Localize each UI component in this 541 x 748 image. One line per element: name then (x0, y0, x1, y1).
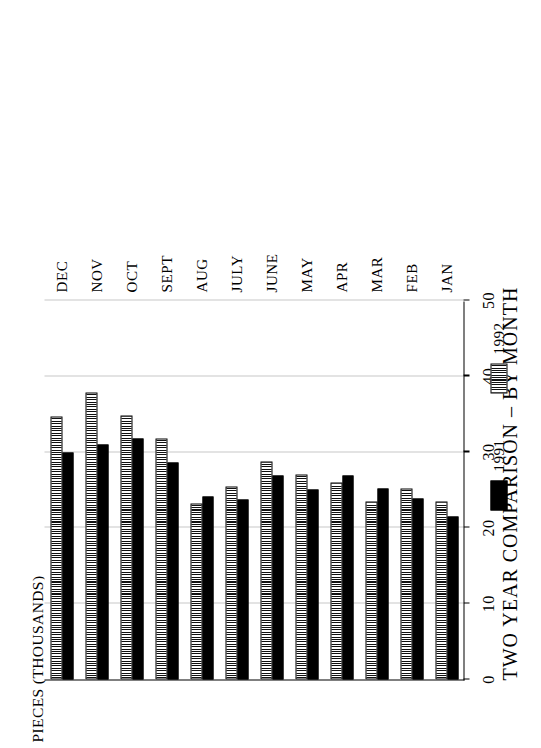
bar-1992 (85, 392, 96, 679)
bar-1992 (260, 461, 271, 679)
bar-group: OCT (114, 301, 149, 679)
legend-item-1992: 1992 (490, 322, 507, 393)
category-label: FEB (403, 263, 420, 292)
bar-1992 (365, 501, 376, 679)
category-label: AUG (193, 258, 210, 292)
bar-group: FEB (394, 301, 429, 679)
axis-tick (463, 526, 469, 527)
chart-page: PIECES (THOUSANDS) JANFEBMARAPRMAYJUNEJU… (0, 0, 541, 748)
category-label: MAY (298, 257, 315, 292)
legend-label-1992: 1992 (490, 322, 507, 354)
bar-1991 (447, 516, 458, 679)
gridline (44, 299, 463, 300)
category-label: DEC (53, 260, 70, 292)
legend-item-1991: 1991 (490, 439, 507, 510)
bar-1992 (330, 482, 341, 679)
category-label: NOV (88, 258, 105, 292)
bar-1992 (225, 486, 236, 679)
bar-1992 (120, 415, 131, 679)
bar-1992 (190, 503, 201, 679)
bar-1991 (167, 462, 178, 679)
bar-group: JULY (219, 301, 254, 679)
category-label: SEPT (158, 255, 175, 292)
axis-tick-label: 0 (479, 675, 497, 684)
chart-legend: 1991 1992 (490, 322, 507, 510)
bar-1991 (342, 475, 353, 679)
bar-1992 (155, 438, 166, 679)
category-label: JULY (228, 254, 245, 292)
legend-swatch-1991 (490, 480, 507, 510)
category-label: JAN (438, 263, 455, 292)
bar-1991 (97, 444, 108, 679)
axis-tick (463, 374, 469, 375)
axis-tick-label: 20 (479, 519, 497, 536)
category-label: OCT (123, 260, 140, 292)
bar-1991 (237, 499, 248, 679)
bar-group: MAR (359, 301, 394, 679)
bar-group: AUG (184, 301, 219, 679)
bar-group: JUNE (254, 301, 289, 679)
category-label: JUNE (263, 253, 280, 292)
bar-1991 (412, 498, 423, 679)
bar-group: SEPT (149, 301, 184, 679)
bar-group: APR (324, 301, 359, 679)
bar-1991 (377, 488, 388, 679)
bar-1991 (272, 475, 283, 679)
bar-1992 (50, 416, 61, 679)
axis-tick (463, 450, 469, 451)
bar-1991 (132, 438, 143, 679)
axis-title-pieces: PIECES (THOUSANDS) (28, 575, 46, 742)
axis-tick (463, 602, 469, 603)
bar-1991 (307, 490, 318, 680)
bar-group: DEC (44, 301, 79, 679)
bar-groups: JANFEBMARAPRMAYJUNEJULYAUGSEPTOCTNOVDEC (44, 301, 463, 679)
bar-1991 (202, 496, 213, 679)
legend-label-1991: 1991 (490, 439, 507, 471)
category-label: APR (333, 261, 350, 292)
axis-tick-label: 10 (479, 595, 497, 612)
bar-1991 (62, 452, 73, 679)
legend-swatch-1992 (490, 363, 507, 393)
bar-group: NOV (79, 301, 114, 679)
bar-group: MAY (289, 301, 324, 679)
bar-1992 (400, 488, 411, 679)
bar-1992 (295, 474, 306, 679)
category-label: MAR (368, 256, 385, 292)
axis-tick (463, 678, 469, 679)
bar-group: JAN (429, 301, 464, 679)
bar-1992 (435, 501, 446, 679)
axis-tick-label: 50 (479, 292, 497, 309)
plot-area: JANFEBMARAPRMAYJUNEJULYAUGSEPTOCTNOVDEC … (44, 301, 464, 680)
chart-figure: PIECES (THOUSANDS) JANFEBMARAPRMAYJUNEJU… (0, 0, 541, 748)
axis-tick (463, 299, 469, 300)
